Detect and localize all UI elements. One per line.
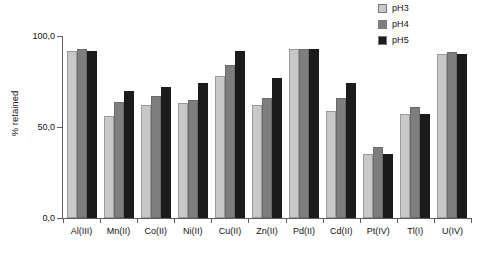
bar-ph3-cuii	[215, 76, 225, 218]
bar-group	[323, 36, 360, 218]
x-tick-mark	[248, 218, 249, 223]
bar-ph4-niii	[188, 100, 198, 218]
x-axis-label: Pd(II)	[286, 226, 323, 236]
y-tick-label: 100,0	[32, 31, 55, 41]
bar-group	[434, 36, 471, 218]
x-axis-label: Co(II)	[137, 226, 174, 236]
bar-ph3-uiv	[437, 54, 447, 218]
bar-ph4-mnii	[114, 102, 124, 218]
x-tick-mark	[211, 218, 212, 223]
bar-ph5-niii	[198, 83, 208, 218]
x-axis-label: Al(III)	[63, 226, 100, 236]
legend-label-ph3: pH3	[392, 4, 409, 13]
bar-group	[211, 36, 248, 218]
bar-ph4-ptiv	[373, 147, 383, 218]
bar-ph3-pdii	[289, 49, 299, 218]
x-tick-mark	[137, 218, 138, 223]
x-tick-mark	[323, 218, 324, 223]
x-tick-mark	[286, 218, 287, 223]
legend-item-ph3: pH3	[378, 4, 409, 13]
bar-ph5-aliii	[87, 51, 97, 218]
bar-ph4-aliii	[77, 49, 87, 218]
bar-group	[100, 36, 137, 218]
bar-ph3-tli	[400, 114, 410, 218]
y-tick-label: 0,0	[42, 213, 55, 223]
x-axis-label: Ni(II)	[174, 226, 211, 236]
x-axis-label: Cd(II)	[323, 226, 360, 236]
x-axis-label: U(IV)	[434, 226, 471, 236]
bar-group	[286, 36, 323, 218]
x-axis-label: Cu(II)	[211, 226, 248, 236]
y-axis-title: % retained	[9, 79, 20, 149]
bar-ph4-pdii	[299, 49, 309, 218]
bar-group	[360, 36, 397, 218]
bar-group	[174, 36, 211, 218]
x-tick-mark	[434, 218, 435, 223]
bar-ph3-ptiv	[363, 154, 373, 218]
bar-group	[63, 36, 100, 218]
bar-ph3-znii	[252, 105, 262, 218]
x-tick-mark	[174, 218, 175, 223]
x-axis-label: Tl(I)	[397, 226, 434, 236]
x-tick-mark	[100, 218, 101, 223]
bar-ph3-niii	[178, 103, 188, 218]
bar-ph3-cdii	[326, 111, 336, 218]
x-tick-mark	[471, 218, 472, 223]
bar-ph5-ptiv	[383, 154, 393, 218]
bar-ph4-coii	[151, 96, 161, 218]
x-axis-line	[62, 218, 471, 219]
legend-item-ph4: pH4	[378, 20, 409, 29]
bar-ph4-cuii	[225, 65, 235, 218]
x-axis-label: Mn(II)	[100, 226, 137, 236]
legend-label-ph4: pH4	[392, 20, 409, 29]
bar-ph4-cdii	[336, 98, 346, 218]
legend-swatch-ph3	[378, 4, 387, 13]
plot-area	[63, 36, 471, 218]
bar-ph3-coii	[141, 105, 151, 218]
bar-ph3-mnii	[104, 116, 114, 218]
x-tick-mark	[397, 218, 398, 223]
bar-ph4-znii	[262, 98, 272, 218]
y-tick-label: 50,0	[37, 122, 55, 132]
bar-group	[248, 36, 285, 218]
bar-group	[137, 36, 174, 218]
x-axis-label: Pt(IV)	[360, 226, 397, 236]
bar-ph5-cuii	[235, 51, 245, 218]
bar-ph5-znii	[272, 78, 282, 218]
x-tick-mark	[63, 218, 64, 223]
bar-ph5-coii	[161, 87, 171, 218]
x-tick-mark	[360, 218, 361, 223]
bar-chart: pH3 pH4 pH5 % retained 100,050,00,0 Al(I…	[0, 0, 479, 254]
bar-ph5-tli	[420, 114, 430, 218]
bar-ph5-uiv	[457, 54, 467, 218]
bar-ph5-pdii	[309, 49, 319, 218]
bar-ph5-mnii	[124, 91, 134, 218]
bar-ph3-aliii	[67, 51, 77, 218]
x-axis-label: Zn(II)	[248, 226, 285, 236]
bar-group	[397, 36, 434, 218]
bar-ph5-cdii	[346, 83, 356, 218]
legend-swatch-ph4	[378, 20, 387, 29]
bar-ph4-uiv	[447, 52, 457, 218]
bar-ph4-tli	[410, 107, 420, 218]
